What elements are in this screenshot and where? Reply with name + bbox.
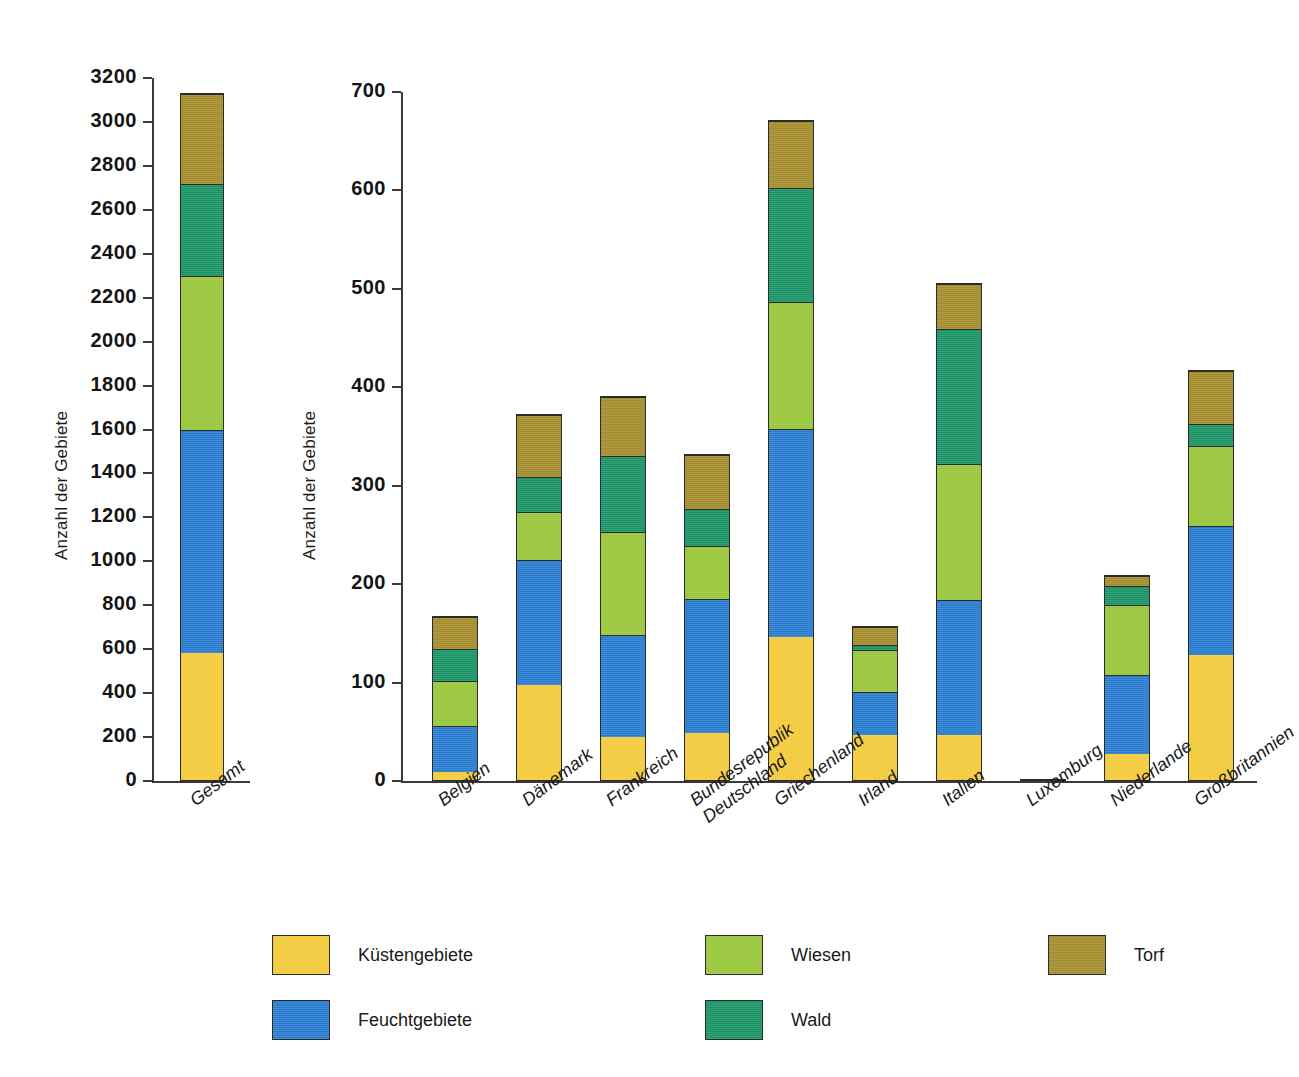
bar-segment-torf [433, 617, 477, 649]
bar-segment-wiesen [1189, 446, 1233, 526]
bar-frankreich [600, 396, 646, 781]
y-tick-label-600: 600 [61, 636, 137, 659]
bar-segment-wiesen [769, 302, 813, 429]
y-tick-label-1200: 1200 [61, 504, 137, 527]
y-tick-200 [392, 583, 401, 585]
y-tick-label-300: 300 [330, 473, 386, 496]
bar-segment-wiesen [601, 532, 645, 635]
y-tick-200 [143, 736, 152, 738]
legend-label-torf: Torf [1134, 945, 1164, 966]
legend-label-wiesen: Wiesen [791, 945, 851, 966]
y-tick-label-600: 600 [330, 177, 386, 200]
bar-segment-torf [181, 94, 223, 184]
x-label-luxemburg: Luxemburg [1022, 740, 1107, 811]
y-tick-100 [392, 682, 401, 684]
bar-gesamt [180, 93, 224, 781]
bar-segment-wald [853, 645, 897, 650]
chart-total: Anzahl der Gebiete 020040060080010001200… [0, 0, 290, 900]
y-tick-label-1600: 1600 [61, 417, 137, 440]
bar-segment-torf [1105, 576, 1149, 586]
bar-segment-torf [937, 284, 981, 329]
legend-item-torf: Torf [1048, 935, 1164, 975]
bar-segment-wald [769, 188, 813, 302]
bar-segment-wiesen [685, 546, 729, 599]
y-tick-label-2200: 2200 [61, 285, 137, 308]
bar-segment-torf [517, 415, 561, 477]
legend-swatch-torf [1048, 935, 1106, 975]
y-tick-label-2600: 2600 [61, 197, 137, 220]
bar-segment-feucht [769, 429, 813, 637]
bar-segment-feucht [685, 599, 729, 733]
y-tick-label-0: 0 [330, 768, 386, 791]
bar-segment-wald [181, 184, 223, 276]
bar-segment-torf [601, 397, 645, 456]
bar-segment-wiesen [1105, 605, 1149, 675]
y-tick-label-2800: 2800 [61, 153, 137, 176]
y-tick-0 [392, 780, 401, 782]
legend-item-wiesen: Wiesen [705, 935, 851, 975]
y-axis-line-countries [401, 92, 403, 783]
y-tick-label-2400: 2400 [61, 241, 137, 264]
bar-belgien [432, 616, 478, 781]
bar-segment-wald [1105, 586, 1149, 605]
legend-item-kuestengebiete: Küstengebiete [272, 935, 473, 975]
y-tick-1600 [143, 429, 152, 431]
bar-griechenland [768, 120, 814, 781]
bar-segment-feucht [1189, 526, 1233, 654]
y-axis-line-total [152, 78, 154, 783]
y-tick-label-200: 200 [330, 571, 386, 594]
bar-bundesrepublik-deutschland [684, 454, 730, 781]
bar-segment-kuesten [1189, 655, 1233, 780]
legend-item-feuchtgebiete: Feuchtgebiete [272, 1000, 472, 1040]
y-tick-label-3000: 3000 [61, 109, 137, 132]
y-axis-title-countries: Anzahl der Gebiete [300, 411, 320, 560]
bar-segment-wald [433, 649, 477, 681]
bar-segment-wald [601, 456, 645, 532]
y-tick-2000 [143, 341, 152, 343]
y-tick-label-1000: 1000 [61, 548, 137, 571]
bar-segment-feucht [517, 560, 561, 685]
y-tick-label-500: 500 [330, 276, 386, 299]
y-tick-600 [392, 189, 401, 191]
bar-irland [852, 626, 898, 781]
bar-dänemark [516, 414, 562, 781]
y-tick-1000 [143, 560, 152, 562]
bar-niederlande [1104, 575, 1150, 781]
y-tick-label-100: 100 [330, 670, 386, 693]
y-tick-700 [392, 91, 401, 93]
y-tick-3200 [143, 77, 152, 79]
legend-label-wald: Wald [791, 1010, 831, 1031]
bar-segment-wald [685, 509, 729, 546]
legend-swatch-feuchtgebiete [272, 1000, 330, 1040]
bar-segment-feucht [181, 430, 223, 653]
bar-segment-torf [853, 627, 897, 644]
bar-segment-wald [517, 477, 561, 512]
bar-segment-kuesten [181, 653, 223, 780]
y-tick-2200 [143, 297, 152, 299]
chart-legend: Küstengebiete Feuchtgebiete Wiesen Wald … [0, 925, 1284, 1065]
y-tick-500 [392, 288, 401, 290]
bar-großbritannien [1188, 370, 1234, 781]
bar-segment-feucht [937, 600, 981, 735]
y-tick-400 [392, 386, 401, 388]
y-tick-2800 [143, 165, 152, 167]
y-tick-label-0: 0 [61, 768, 137, 791]
y-tick-label-700: 700 [330, 79, 386, 102]
bar-segment-torf [685, 455, 729, 509]
bar-segment-wiesen [937, 464, 981, 599]
y-tick-label-1800: 1800 [61, 373, 137, 396]
y-tick-1800 [143, 385, 152, 387]
bar-segment-wiesen [517, 512, 561, 560]
bar-segment-feucht [853, 692, 897, 736]
y-tick-label-400: 400 [330, 374, 386, 397]
legend-swatch-wiesen [705, 935, 763, 975]
y-tick-label-1400: 1400 [61, 460, 137, 483]
bar-segment-torf [1189, 371, 1233, 425]
y-tick-2600 [143, 209, 152, 211]
y-tick-300 [392, 485, 401, 487]
y-tick-1200 [143, 516, 152, 518]
y-tick-label-200: 200 [61, 724, 137, 747]
y-tick-2400 [143, 253, 152, 255]
y-tick-800 [143, 604, 152, 606]
y-tick-1400 [143, 472, 152, 474]
